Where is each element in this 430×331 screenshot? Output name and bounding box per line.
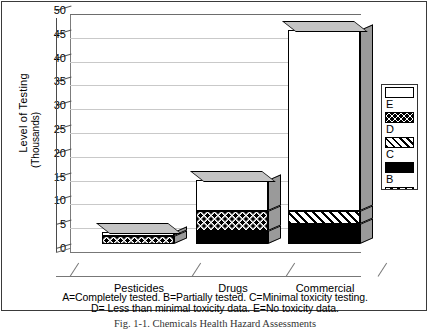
y-tick-label: 5 bbox=[30, 219, 66, 229]
y-tick-label: 40 bbox=[30, 53, 66, 63]
bar-segment-d bbox=[196, 211, 268, 231]
legend-label-c: C bbox=[385, 148, 415, 162]
y-tick-label: 15 bbox=[30, 172, 66, 182]
legend[interactable]: EDCBA bbox=[381, 84, 418, 190]
bar-segment-d bbox=[102, 236, 174, 244]
y-tick-label: 45 bbox=[30, 29, 66, 39]
bar-segment-b bbox=[288, 224, 360, 244]
bar-top-face bbox=[281, 21, 367, 32]
footnote-line-2: D= Less than minimal toxicity data. E=No… bbox=[0, 302, 430, 314]
plot-floor bbox=[56, 276, 361, 277]
plot-area: 05101520253035404550 PesticidesDrugsComm… bbox=[56, 14, 361, 266]
plot-baseline bbox=[70, 252, 361, 253]
bar-segment-c bbox=[288, 211, 360, 224]
bar-pesticides[interactable] bbox=[102, 14, 174, 252]
legend-swatch-c bbox=[385, 137, 414, 148]
bar-top-face bbox=[189, 171, 275, 182]
y-tick-label: 35 bbox=[30, 76, 66, 86]
y-tick-label: 50 bbox=[30, 5, 66, 15]
legend-swatch-a bbox=[385, 187, 414, 190]
figure-caption: Fig. 1-1. Chemicals Health Hazard Assess… bbox=[0, 318, 430, 329]
y-axis-subtitle: (Thousands) bbox=[30, 80, 46, 200]
bar-segment-side bbox=[360, 24, 373, 211]
bar-segment-e bbox=[196, 180, 268, 211]
bar-commercial[interactable] bbox=[288, 14, 360, 252]
y-tick-label: 25 bbox=[30, 124, 66, 134]
figure: Level of Testing (Thousands) 05101520253… bbox=[0, 0, 430, 331]
y-tick-label: 10 bbox=[30, 195, 66, 205]
legend-items: EDCBA bbox=[385, 87, 415, 190]
bar-drugs[interactable] bbox=[196, 14, 268, 252]
legend-swatch-e bbox=[385, 87, 414, 98]
legend-label-b: B bbox=[385, 173, 415, 187]
y-tick-label: 30 bbox=[30, 100, 66, 110]
y-axis-line bbox=[56, 18, 57, 252]
bar-segment-b bbox=[196, 231, 268, 244]
bar-segment-e bbox=[288, 30, 360, 211]
legend-label-e: E bbox=[385, 98, 415, 112]
legend-label-d: D bbox=[385, 123, 415, 137]
y-tick-label: 20 bbox=[30, 148, 66, 158]
bar-top-face bbox=[95, 223, 181, 234]
legend-swatch-b bbox=[385, 162, 414, 173]
legend-swatch-d bbox=[385, 112, 414, 123]
